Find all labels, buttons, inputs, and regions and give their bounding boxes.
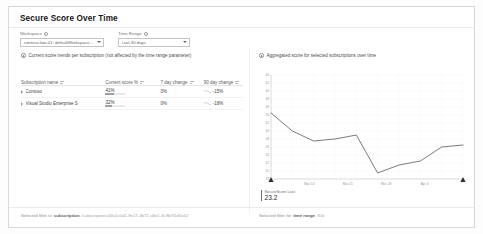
change-90-value: -15% <box>213 89 224 94</box>
svg-text:Mar 28: Mar 28 <box>381 182 391 186</box>
svg-text:42: 42 <box>265 81 269 85</box>
column-label: Current score % <box>105 80 138 85</box>
sort-icon[interactable] <box>140 80 144 85</box>
time-range-label: Time Range <box>118 31 142 36</box>
cell-7-day-change: 0% <box>161 89 204 94</box>
workspace-label-row: Workspace <box>20 31 104 36</box>
column-header-subscription-name[interactable]: Subscription name <box>21 80 105 85</box>
title-divider <box>9 27 475 28</box>
table-row[interactable]: Visual Studio Enterprise S 32% 0% -1 <box>21 98 243 110</box>
secure-score-line-chart[interactable]: 1820222426283032343638404244Mar 14Mar 21… <box>257 69 469 197</box>
chart-annotation: SecureScore Last 23.2 <box>261 190 295 201</box>
time-range-filter: Time Range Last 30 days <box>118 31 190 47</box>
time-range-dropdown[interactable]: Last 30 days <box>118 38 190 47</box>
footer-key: time range <box>293 213 315 218</box>
svg-text:30: 30 <box>265 129 269 133</box>
sparkline-down-icon <box>204 101 211 106</box>
column-label: Subscription name <box>21 80 58 85</box>
score-bar-fill <box>105 93 113 95</box>
subscription-name-text: Contoso <box>26 89 43 94</box>
svg-text:40: 40 <box>265 89 269 93</box>
footer-prefix: Selected filter for <box>259 213 291 218</box>
workspace-filter: Workspace contoso-law-01; defaultWorkspa… <box>20 31 104 47</box>
workspace-dropdown[interactable]: contoso-law-01; defaultWorkspace-7a3c-eu… <box>20 38 104 47</box>
footer-value: 30d <box>317 213 324 218</box>
score-value: 32% <box>105 100 127 105</box>
chevron-down-icon <box>183 41 187 43</box>
time-range-label-row: Time Range <box>118 31 190 36</box>
chart-caption-text: Aggregated score for selected subscripti… <box>267 53 377 58</box>
info-icon[interactable] <box>44 32 48 36</box>
cell-subscription-name: Visual Studio Enterprise S <box>21 101 105 106</box>
column-label: 90 day change <box>204 80 234 85</box>
subscription-name-text: Visual Studio Enterprise S <box>26 101 78 106</box>
score-bar-track <box>105 105 125 107</box>
info-icon[interactable] <box>144 32 148 36</box>
secure-score-panel: Secure Score Over Time Workspace contoso… <box>8 6 475 228</box>
column-label: 7 day change <box>161 80 188 85</box>
cell-90-day-change: -18% <box>204 101 243 106</box>
svg-text:38: 38 <box>265 97 269 101</box>
info-circle-icon <box>21 53 26 58</box>
svg-text:20: 20 <box>265 169 269 173</box>
info-circle-icon <box>259 53 264 58</box>
table-row[interactable]: Contoso 41% 0% -15% <box>21 86 243 98</box>
workspace-dropdown-value: contoso-law-01; defaultWorkspace-7a3c-eu… <box>24 40 95 45</box>
section-divider <box>249 47 250 213</box>
svg-text:32: 32 <box>265 121 269 125</box>
cell-90-day-change: -15% <box>204 89 243 94</box>
table-caption-text: Current score trends per subscription (n… <box>29 53 192 58</box>
svg-text:Apr 4: Apr 4 <box>421 182 429 186</box>
sparkline-down-icon <box>204 89 211 94</box>
score-bar-track <box>105 93 125 95</box>
svg-text:36: 36 <box>265 105 269 109</box>
table-header-row: Subscription name Current score % 7 day … <box>21 75 243 86</box>
chart-svg: 1820222426283032343638404244Mar 14Mar 21… <box>257 69 469 197</box>
column-header-90-day-change[interactable]: 90 day change <box>204 80 243 85</box>
chevron-right-icon[interactable] <box>21 102 23 106</box>
footer-value: /subscriptions/4fa1c0d2-9e17-4b72-a8e1-3… <box>82 213 189 218</box>
svg-text:34: 34 <box>265 113 269 117</box>
svg-text:44: 44 <box>265 73 269 77</box>
subscription-table: Subscription name Current score % 7 day … <box>21 75 243 110</box>
footer-divider <box>9 207 475 208</box>
cell-current-score: 32% <box>105 100 160 108</box>
cell-subscription-name: Contoso <box>21 89 105 94</box>
footer-prefix: Selected filter to <box>21 213 52 218</box>
svg-text:18: 18 <box>265 177 269 181</box>
sort-icon[interactable] <box>60 80 64 85</box>
footer-time-range-filter: Selected filter for time range 30d <box>259 213 324 218</box>
svg-text:Mar 14: Mar 14 <box>304 182 314 186</box>
score-value: 41% <box>105 88 127 93</box>
sort-icon[interactable] <box>190 80 194 85</box>
svg-text:28: 28 <box>265 137 269 141</box>
screenshot-root: Secure Score Over Time Workspace contoso… <box>0 0 483 234</box>
chevron-down-icon <box>97 41 101 43</box>
svg-text:26: 26 <box>265 145 269 149</box>
cell-current-score: 41% <box>105 88 160 96</box>
chevron-right-icon[interactable] <box>21 90 23 94</box>
change-90-value: -18% <box>213 101 224 106</box>
score-bar-group: 32% <box>105 100 127 108</box>
footer-subscription-filter: Selected filter to subscription /subscri… <box>21 213 188 218</box>
annotation-value: 23.2 <box>265 194 295 201</box>
sort-icon[interactable] <box>235 80 239 85</box>
page-title: Secure Score Over Time <box>20 14 118 23</box>
score-bar-fill <box>105 105 111 107</box>
svg-text:24: 24 <box>265 153 269 157</box>
chart-section-caption: Aggregated score for selected subscripti… <box>259 53 376 58</box>
score-bar-group: 41% <box>105 88 127 96</box>
cell-7-day-change: 0% <box>161 101 204 106</box>
table-section-caption: Current score trends per subscription (n… <box>21 53 191 58</box>
svg-text:Mar 21: Mar 21 <box>343 182 353 186</box>
footer-key: subscription <box>54 213 80 218</box>
column-header-7-day-change[interactable]: 7 day change <box>161 80 204 85</box>
column-header-current-score[interactable]: Current score % <box>105 80 160 85</box>
workspace-label: Workspace <box>20 31 42 36</box>
svg-text:22: 22 <box>265 161 269 165</box>
time-range-dropdown-value: Last 30 days <box>122 40 146 45</box>
